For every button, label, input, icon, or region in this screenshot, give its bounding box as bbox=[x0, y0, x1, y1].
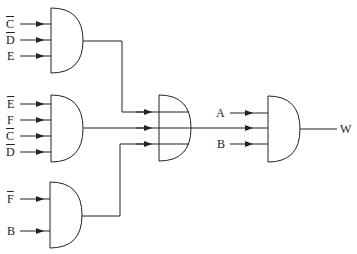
input-label-d-bar: D bbox=[6, 34, 15, 46]
and-gate-3 bbox=[50, 182, 82, 248]
and-gate-5 bbox=[268, 96, 300, 162]
input-label-a: A bbox=[216, 107, 225, 119]
logic-circuit-diagram bbox=[0, 0, 357, 254]
input-label-f: F bbox=[7, 114, 14, 126]
and-gate-2 bbox=[51, 95, 83, 162]
input-label-b: B bbox=[7, 225, 15, 237]
input-label-e: E bbox=[7, 50, 14, 62]
and-gate-1 bbox=[51, 8, 83, 73]
input-label-c-bar: C bbox=[6, 130, 14, 142]
input-label-c-bar: C bbox=[6, 18, 14, 30]
input-label-b: B bbox=[217, 138, 225, 150]
input-label-d-bar: D bbox=[6, 146, 15, 158]
input-label-e-bar: E bbox=[7, 98, 14, 110]
output-label-w: W bbox=[340, 123, 351, 135]
input-label-f-bar: F bbox=[7, 193, 14, 205]
